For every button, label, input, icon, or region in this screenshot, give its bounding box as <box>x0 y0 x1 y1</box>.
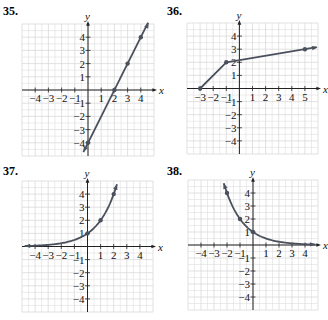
data-point <box>238 217 242 221</box>
data-point <box>86 141 90 145</box>
x-tick-label: −3 <box>194 91 206 103</box>
x-tick-label: −2 <box>221 247 233 259</box>
y-tick-label: −2 <box>73 110 85 122</box>
x-tick-label: −3 <box>42 249 54 261</box>
y-tick-label: −2 <box>225 109 237 121</box>
y-axis-label: y <box>249 166 255 178</box>
x-tick-label: 4 <box>137 249 143 261</box>
x-tick-label: 2 <box>111 249 117 261</box>
y-tick-label: 3 <box>231 43 237 55</box>
y-tick-label: −4 <box>73 293 85 305</box>
x-tick-label: 5 <box>302 91 308 103</box>
arrowhead-icon <box>316 243 321 247</box>
graph-36-plot: xy−3−2−112345−4−3−2−11234 <box>164 0 328 160</box>
data-point <box>251 230 255 234</box>
y-tick-label: −2 <box>73 267 85 279</box>
arrowhead-icon <box>25 244 31 248</box>
data-point <box>225 191 229 195</box>
y-tick-label: 3 <box>245 200 251 212</box>
y-tick-label: −3 <box>225 122 237 134</box>
graph-38: 38. xy−4−3−2−11234−4−3−2−11234 <box>164 160 328 320</box>
y-tick-label: −3 <box>73 280 85 292</box>
series-curve <box>83 23 148 152</box>
x-tick-label: 1 <box>98 92 104 104</box>
data-point <box>85 231 89 235</box>
x-tick-label: 1 <box>250 91 256 103</box>
x-tick-label: 1 <box>98 249 104 261</box>
y-tick-label: −1 <box>73 254 85 266</box>
graph-35: 35. xy−4−3−2−11234−4−3−2−11234 <box>0 0 164 160</box>
y-axis-label: y <box>84 10 90 22</box>
y-axis-label: y <box>84 167 90 179</box>
x-tick-label: −2 <box>56 92 68 104</box>
x-tick-label: 4 <box>302 247 308 259</box>
y-tick-label: −3 <box>238 278 250 290</box>
y-tick-label: −1 <box>225 96 237 108</box>
y-axis-label: y <box>235 9 241 21</box>
graph-37-plot: xy−4−3−2−11234−4−3−2−11234 <box>0 160 164 320</box>
y-tick-label: 3 <box>80 44 86 56</box>
x-axis-label: x <box>322 239 328 251</box>
y-tick-label: −3 <box>73 124 85 136</box>
graph-35-plot: xy−4−3−2−11234−4−3−2−11234 <box>0 0 164 160</box>
x-tick-label: 3 <box>125 92 131 104</box>
arrowhead-icon <box>316 87 321 91</box>
x-tick-label: −4 <box>29 249 41 261</box>
x-tick-label: 3 <box>124 249 130 261</box>
y-tick-label: 4 <box>79 188 85 200</box>
y-tick-label: −4 <box>73 137 85 149</box>
y-tick-label: −2 <box>238 265 250 277</box>
y-tick-label: 1 <box>231 69 237 81</box>
data-point <box>125 61 129 65</box>
arrowhead-icon <box>152 88 157 92</box>
y-tick-label: −4 <box>225 135 237 147</box>
series-curve <box>198 46 318 91</box>
x-tick-label: 4 <box>138 92 144 104</box>
y-tick-label: 2 <box>79 214 85 226</box>
y-tick-label: 2 <box>80 58 86 70</box>
y-tick-label: 4 <box>80 31 86 43</box>
data-point <box>303 47 307 51</box>
y-tick-label: −1 <box>238 252 250 264</box>
x-tick-label: 4 <box>289 91 295 103</box>
x-tick-label: 2 <box>263 91 269 103</box>
x-axis-label: x <box>157 241 163 253</box>
arrowhead-icon <box>151 245 156 249</box>
y-tick-label: 2 <box>245 213 251 225</box>
x-tick-label: 1 <box>263 247 269 259</box>
axes <box>187 20 321 154</box>
data-point <box>224 60 228 64</box>
y-tick-label: 3 <box>79 201 85 213</box>
data-point <box>112 88 116 92</box>
data-point <box>198 86 202 90</box>
graph-38-plot: xy−4−3−2−11234−4−3−2−11234 <box>164 160 328 320</box>
x-axis-label: x <box>322 83 328 95</box>
y-tick-label: 1 <box>80 71 86 83</box>
x-tick-label: −2 <box>207 91 219 103</box>
graph-37: 37. xy−4−3−2−11234−4−3−2−11234 <box>0 160 164 320</box>
y-tick-label: −4 <box>238 291 250 303</box>
x-tick-label: −4 <box>29 92 41 104</box>
data-point <box>139 35 143 39</box>
arrowhead-icon <box>83 146 87 152</box>
y-tick-label: 4 <box>245 187 251 199</box>
y-tick-label: −1 <box>73 97 85 109</box>
axes <box>22 21 157 156</box>
y-tick-label: 4 <box>231 30 237 42</box>
x-tick-label: −3 <box>208 247 220 259</box>
data-point <box>98 218 102 222</box>
data-point <box>112 192 116 196</box>
x-tick-label: −3 <box>43 92 55 104</box>
x-tick-label: 3 <box>289 247 295 259</box>
x-tick-label: 3 <box>276 91 282 103</box>
graph-36: 36. xy−3−2−112345−4−3−2−11234 <box>164 0 328 160</box>
x-tick-label: −2 <box>55 249 67 261</box>
arrowhead-icon <box>310 242 316 246</box>
x-tick-label: −4 <box>195 247 207 259</box>
x-tick-label: 2 <box>276 247 282 259</box>
